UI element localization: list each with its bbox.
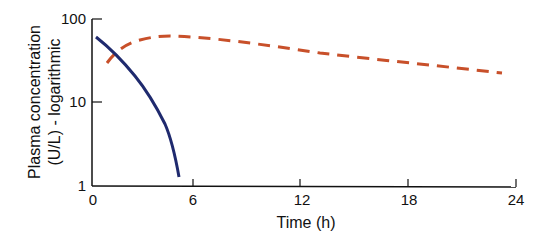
chart: 100 10 1 0 6 12 18 24 Time (h) Plasma co… [0, 0, 546, 242]
series-dashed-orange [107, 36, 502, 73]
y-axis-title-line2: (U/L) - logarithmic [46, 38, 63, 165]
x-tick-12: 12 [294, 191, 311, 208]
series-solid-blue [96, 37, 179, 177]
y-axis-title-line1: Plasma concentration [26, 25, 43, 179]
y-tick-10: 10 [69, 93, 86, 110]
x-axis: 0 6 12 18 24 Time (h) [89, 179, 525, 231]
y-tick-100: 100 [61, 10, 86, 27]
x-tick-18: 18 [401, 191, 418, 208]
x-tick-0: 0 [89, 191, 97, 208]
y-axis-title: Plasma concentration (U/L) - logarithmic [26, 25, 63, 179]
x-tick-24: 24 [508, 191, 525, 208]
x-tick-6: 6 [189, 191, 197, 208]
x-axis-title: Time (h) [277, 214, 336, 231]
y-tick-1: 1 [78, 177, 86, 194]
